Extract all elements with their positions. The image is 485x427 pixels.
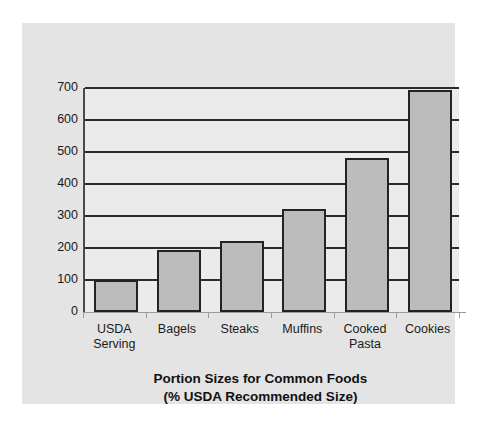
gridline-600 [85,119,459,121]
y-tick-label-300: 300 [42,209,78,222]
x-tick-4 [396,312,397,318]
category-label-3: Muffins [271,322,334,337]
y-tick-label-0: 0 [42,305,78,318]
x-tick-3 [334,312,335,318]
y-tick-label-700: 700 [42,81,78,94]
y-tick-label-100: 100 [42,273,78,286]
gridline-100 [85,279,459,281]
gridline-400 [85,183,459,185]
bar-bagels[interactable] [157,250,201,312]
y-tick-label-500: 500 [42,145,78,158]
x-tick-0 [146,312,147,318]
y-tick-label-200: 200 [42,241,78,254]
figure: 0100200300400500600700 USDA ServingBagel… [0,0,485,427]
category-label-1: Bagels [146,322,209,337]
y-axis-tick-labels: 0100200300400500600700 [34,23,78,404]
x-tick-1 [208,312,209,318]
chart-panel: 0100200300400500600700 USDA ServingBagel… [22,23,455,404]
x-tick-5 [459,312,460,318]
category-label-5: Cookies [396,322,459,337]
y-tick-label-600: 600 [42,113,78,126]
gridline-300 [85,215,459,217]
gridline-200 [85,247,459,249]
plot-area [83,88,459,312]
bar-cooked-pasta[interactable] [345,158,389,312]
category-label-0: USDA Serving [83,322,146,352]
x-tick-2 [271,312,272,318]
x-axis-line [83,312,466,313]
chart-title-line-1: Portion Sizes for Common Foods [44,370,477,388]
bar-cookies[interactable] [408,90,452,312]
category-label-4: Cooked Pasta [334,322,397,352]
chart-title: Portion Sizes for Common Foods (% USDA R… [44,370,477,405]
bar-steaks[interactable] [220,241,264,312]
bar-muffins[interactable] [282,209,326,312]
y-tick-label-400: 400 [42,177,78,190]
bar-usda-serving[interactable] [94,280,138,312]
gridline-500 [85,151,459,153]
gridline-700 [85,87,459,89]
chart-title-line-2: (% USDA Recommended Size) [44,388,477,406]
x-tick-origin [83,312,84,318]
category-label-2: Steaks [208,322,271,337]
